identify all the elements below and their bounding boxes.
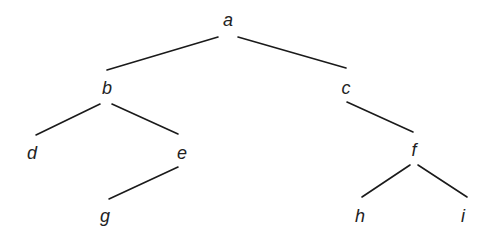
edge-f-h [362,165,410,197]
tree-nodes: abcdefghi [27,10,466,226]
edge-b-d [36,104,100,135]
node-i: i [461,206,466,226]
edge-a-c [238,37,346,68]
node-h: h [355,206,365,226]
node-a: a [223,10,233,30]
node-g: g [100,206,110,226]
node-f: f [411,140,418,160]
edge-a-b [107,37,218,70]
tree-edges [36,37,467,199]
edge-c-f [347,102,413,132]
edge-e-g [109,167,178,199]
edge-f-i [418,165,467,197]
node-e: e [177,143,187,163]
node-c: c [342,78,351,98]
node-b: b [102,78,112,98]
node-d: d [27,143,38,163]
edge-b-e [112,104,178,134]
tree-diagram: abcdefghi [0,0,495,237]
